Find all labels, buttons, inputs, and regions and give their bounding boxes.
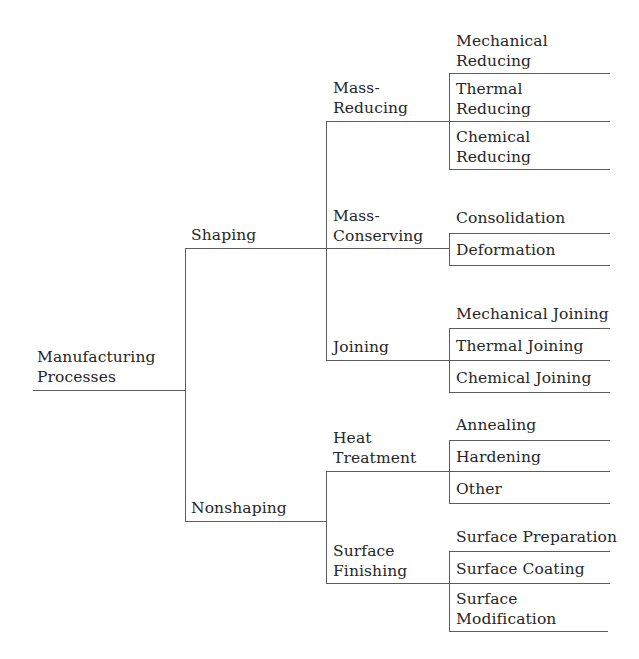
mass-reducing-connector — [326, 121, 449, 122]
leaf-thermal-joining: Thermal Joining — [456, 336, 584, 356]
nonshaping-connector — [185, 521, 326, 522]
shaping-connector — [185, 248, 326, 249]
leaf-line — [449, 583, 610, 584]
leaf-hardening: Hardening — [456, 447, 541, 467]
leaf-line — [449, 121, 610, 122]
leaf-line — [449, 328, 610, 329]
node-mass-conserving: Mass- Conserving — [333, 206, 423, 246]
joining-connector — [326, 360, 449, 361]
leaf-thermal-reducing: Thermal Reducing — [456, 79, 531, 119]
leaf-deformation: Deformation — [456, 240, 556, 260]
leaf-surface-preparation: Surface Preparation — [456, 527, 617, 547]
leaf-annealing: Annealing — [456, 415, 536, 435]
node-shaping: Shaping — [191, 225, 256, 245]
surface-finishing-connector — [326, 583, 449, 584]
node-surface-finishing: Surface Finishing — [333, 541, 407, 581]
leaf-line — [449, 73, 610, 74]
node-mass-reducing: Mass- Reducing — [333, 78, 408, 118]
leaf-consolidation: Consolidation — [456, 208, 565, 228]
leaf-line — [449, 503, 610, 504]
leaf-line — [449, 392, 610, 393]
node-joining: Joining — [333, 337, 389, 357]
leaf-line — [449, 440, 610, 441]
leaf-line — [449, 265, 610, 266]
mass-conserving-connector — [326, 248, 449, 249]
mass-conserving-spine — [449, 233, 450, 265]
leaf-line — [449, 360, 610, 361]
root-connector — [33, 390, 185, 391]
node-manufacturing-processes: Manufacturing Processes — [37, 347, 156, 387]
leaf-other: Other — [456, 479, 502, 499]
shaping-spine — [326, 121, 327, 360]
manufacturing-processes-tree: Manufacturing Processes Shaping Nonshapi… — [0, 0, 639, 659]
heat-treatment-connector — [326, 471, 449, 472]
node-heat-treatment: Heat Treatment — [333, 428, 416, 468]
leaf-line — [449, 631, 608, 632]
surface-finishing-spine — [449, 551, 450, 631]
leaf-chemical-joining: Chemical Joining — [456, 368, 591, 388]
leaf-mechanical-joining: Mechanical Joining — [456, 304, 609, 324]
leaf-chemical-reducing: Chemical Reducing — [456, 127, 531, 167]
leaf-line — [449, 471, 610, 472]
leaf-surface-coating: Surface Coating — [456, 559, 585, 579]
leaf-line — [449, 169, 610, 170]
leaf-line — [449, 551, 610, 552]
leaf-line — [449, 233, 610, 234]
leaf-mechanical-reducing: Mechanical Reducing — [456, 31, 548, 71]
level1-spine — [185, 248, 186, 521]
leaf-surface-modification: Surface Modification — [456, 589, 556, 629]
node-nonshaping: Nonshaping — [191, 498, 287, 518]
nonshaping-spine — [326, 471, 327, 583]
